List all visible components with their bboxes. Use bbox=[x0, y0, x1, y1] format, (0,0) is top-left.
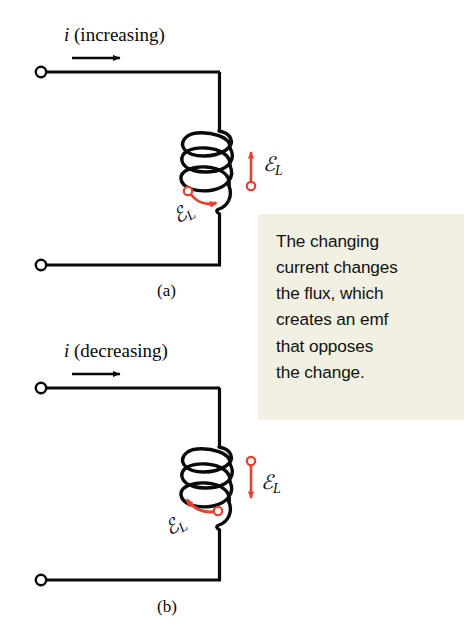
emf-subscript-right-a: L bbox=[275, 163, 283, 178]
current-qualifier-b: (decreasing) bbox=[69, 340, 168, 361]
callout-line-4: creates an emf bbox=[276, 306, 452, 332]
panel-a-circuit bbox=[36, 58, 255, 270]
callout-line-1: The changing bbox=[276, 228, 452, 254]
terminal-top-b bbox=[36, 383, 46, 393]
emf-label-right-a: ℰL bbox=[263, 152, 283, 179]
current-label-a: i (increasing) bbox=[64, 24, 165, 46]
terminal-top-a bbox=[36, 67, 46, 77]
emf-subscript-right-b: L bbox=[273, 481, 281, 496]
current-label-b: i (decreasing) bbox=[64, 340, 168, 362]
callout-line-5: that opposes bbox=[276, 333, 452, 359]
emf-curve-base-dot-a bbox=[184, 187, 192, 195]
emf-arrow-base-dot-b bbox=[247, 457, 255, 465]
terminal-bottom-a bbox=[36, 260, 46, 270]
emf-label-right-b: ℰL bbox=[261, 470, 281, 497]
panel-label-a: (a) bbox=[157, 281, 176, 301]
callout-line-3: the flux, which bbox=[276, 280, 452, 306]
panel-b-circuit bbox=[36, 374, 255, 585]
emf-arrow-base-dot-a bbox=[247, 182, 255, 190]
emf-symbol-right-a: ℰ bbox=[263, 153, 275, 175]
inductance-figure: The changing current changes the flux, w… bbox=[0, 0, 464, 641]
emf-curve-base-dot-b bbox=[214, 507, 222, 515]
terminal-bottom-b bbox=[36, 575, 46, 585]
emf-symbol-right-b: ℰ bbox=[261, 471, 273, 493]
callout-line-2: current changes bbox=[276, 254, 452, 280]
emf-arrow-curved-a bbox=[189, 192, 216, 204]
panel-label-b: (b) bbox=[157, 597, 177, 617]
callout-line-6: the change. bbox=[276, 359, 452, 385]
current-qualifier-a: (increasing) bbox=[69, 24, 164, 45]
inductor-coil-a bbox=[181, 131, 232, 214]
inductor-coil-b bbox=[181, 447, 232, 530]
annotation-callout: The changing current changes the flux, w… bbox=[258, 214, 464, 420]
